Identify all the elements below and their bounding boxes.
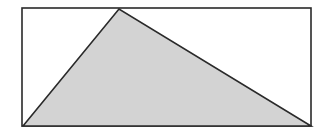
geometry-diagram: [0, 0, 327, 136]
